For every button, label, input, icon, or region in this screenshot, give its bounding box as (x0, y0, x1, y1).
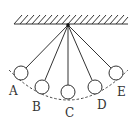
pendulum-diagram: A B C D E (0, 0, 134, 122)
string-e (68, 25, 111, 68)
label-e: E (117, 85, 126, 99)
string-a (26, 25, 68, 68)
string-d (68, 25, 92, 80)
label-c: C (65, 106, 74, 120)
ball-a (14, 66, 28, 80)
string-b (45, 25, 68, 80)
ball-b (35, 80, 49, 94)
label-a: A (8, 84, 18, 98)
ball-c (61, 85, 75, 99)
ball-d (88, 80, 102, 94)
ceiling-hatching (14, 15, 128, 24)
pivot-point (66, 23, 70, 27)
ball-e (109, 66, 123, 80)
label-d: D (97, 98, 107, 112)
label-b: B (32, 100, 41, 114)
strings (26, 25, 111, 85)
